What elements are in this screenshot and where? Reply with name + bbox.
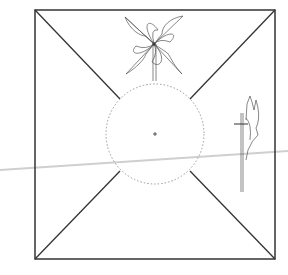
scan-line — [0, 151, 288, 170]
diagonal-bottom-right — [190, 171, 275, 259]
center-mark — [153, 132, 157, 136]
diagram-canvas — [0, 0, 288, 275]
diagonal-bottom-left — [35, 171, 120, 259]
diagonal-top-left — [35, 10, 120, 99]
pinwheel-front-icon — [125, 16, 183, 81]
pinwheel-side-icon — [234, 96, 259, 192]
diagonal-top-right — [190, 10, 275, 99]
